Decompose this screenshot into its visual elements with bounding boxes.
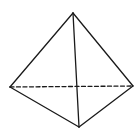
edge-left-bottom <box>10 87 79 127</box>
hidden-edge-left-right <box>10 86 133 87</box>
tetrahedron-diagram <box>0 0 139 131</box>
tetrahedron-figure <box>0 0 139 131</box>
edge-top-left <box>10 13 73 87</box>
visible-edges <box>10 13 133 127</box>
edge-top-right <box>73 13 133 86</box>
edge-top-bottom <box>73 13 79 127</box>
hidden-edges <box>10 86 133 87</box>
edge-right-bottom <box>79 86 133 127</box>
